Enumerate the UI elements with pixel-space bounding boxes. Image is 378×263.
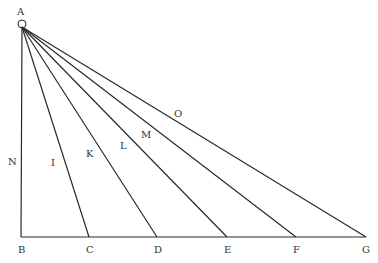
line-AE bbox=[22, 27, 227, 237]
label-G: G bbox=[362, 244, 370, 255]
label-N: N bbox=[8, 156, 17, 167]
label-C: C bbox=[86, 244, 94, 255]
label-A: A bbox=[16, 6, 25, 17]
line-AC bbox=[22, 27, 89, 237]
label-D: D bbox=[154, 244, 162, 255]
label-F: F bbox=[293, 244, 300, 255]
label-I: I bbox=[51, 157, 55, 168]
label-B: B bbox=[18, 244, 25, 255]
line-AG bbox=[22, 27, 366, 237]
label-K: K bbox=[86, 148, 94, 159]
label-E: E bbox=[224, 244, 231, 255]
label-M: M bbox=[141, 129, 151, 140]
label-L: L bbox=[120, 140, 127, 151]
apex-circle bbox=[18, 20, 26, 28]
line-AB bbox=[21, 27, 22, 237]
line-AF bbox=[22, 27, 296, 237]
geometric-diagram: A B C D E F G N I K L M O bbox=[0, 0, 378, 263]
line-AD bbox=[22, 27, 157, 237]
label-O: O bbox=[174, 108, 182, 119]
